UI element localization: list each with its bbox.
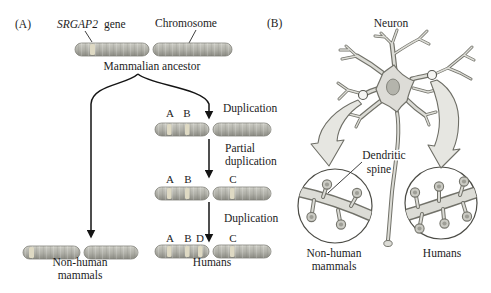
axon-terminal (384, 241, 392, 247)
humans-label-b: Humans (423, 247, 462, 259)
gene-band-a (167, 188, 172, 199)
zoom-circle-humans (403, 167, 480, 239)
panel-b: (B) Neuron (267, 17, 480, 272)
partial-duplication-label-2: duplication (225, 155, 277, 168)
figure-canvas: (A) SRGAP2 gene Chromosome Mammalian anc… (0, 0, 491, 293)
humans-label-a: Humans (193, 256, 232, 268)
duplication-2-label: Duplication (224, 212, 279, 225)
letter-b: B (184, 232, 191, 244)
magnifier-marker-right (428, 71, 437, 80)
gene-band-b (185, 124, 190, 135)
branch-arrow-left (91, 74, 138, 230)
chromosome-ancestor (75, 43, 232, 56)
letter-b: B (184, 173, 191, 185)
letter-d: D (196, 232, 204, 244)
letter-b: B (183, 107, 190, 119)
panel-a: (A) SRGAP2 gene Chromosome Mammalian anc… (15, 17, 279, 281)
magnify-arrow-right (428, 80, 460, 168)
dendritic-spine-label-2: spine (367, 163, 391, 176)
srgap2-gene-label-rest: gene (104, 18, 126, 31)
nonhuman-label-a-1: Non-human (53, 256, 108, 268)
nonhuman-label-a-2: mammals (58, 269, 103, 281)
branch-arrow-right (138, 74, 209, 111)
magnify-arrow-left (311, 100, 362, 166)
dendritic-spine-label-1: Dendritic (362, 149, 405, 161)
nonhuman-label-b-2: mammals (312, 260, 357, 272)
srgap2-evolution-figure: (A) SRGAP2 gene Chromosome Mammalian anc… (0, 0, 491, 293)
nucleus (387, 79, 400, 95)
chromosome-pointer-line (189, 30, 196, 43)
partial-duplication-label-1: Partial (225, 142, 255, 154)
srgap2-pointer-line (85, 31, 92, 42)
nonhuman-label-b-1: Non-human (307, 247, 362, 259)
panel-b-label: (B) (267, 17, 283, 30)
chromosome-partial-duplication (155, 187, 271, 200)
letter-a: A (166, 107, 174, 119)
ancestor-label: Mammalian ancestor (104, 60, 201, 72)
magnifier-marker-left (359, 91, 368, 100)
duplication-1-label: Duplication (223, 102, 278, 115)
gene-band-a (167, 246, 172, 257)
zoom-circle-nonhuman (296, 169, 376, 243)
letter-a: A (166, 173, 174, 185)
chromosome-label: Chromosome (155, 17, 217, 29)
neuron-label: Neuron (374, 17, 409, 29)
gene-band-b (185, 188, 190, 199)
srgap2-band (29, 247, 34, 258)
gene-band-b (185, 246, 190, 257)
srgap2-band (90, 44, 95, 55)
letter-c: C (229, 232, 236, 244)
panel-a-label: (A) (15, 18, 31, 31)
gene-band-c (230, 188, 235, 199)
srgap2-gene-label-italic: SRGAP2 (57, 18, 98, 30)
gene-band-a (167, 124, 172, 135)
chromosome-duplication-1 (155, 123, 271, 136)
letter-a: A (166, 232, 174, 244)
letter-c: C (229, 173, 236, 185)
axon (384, 112, 399, 247)
